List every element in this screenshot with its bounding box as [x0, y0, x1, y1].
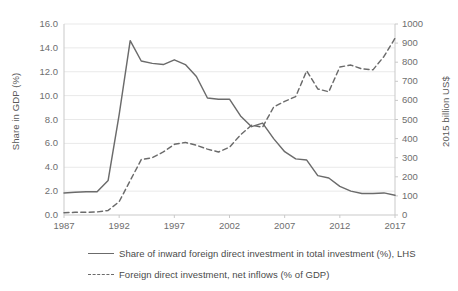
series-line-solid — [64, 41, 395, 196]
right-axis-tick-label: 100 — [402, 190, 436, 201]
right-axis-title: 2015 billion US$ — [440, 53, 451, 171]
x-axis-tick-label: 2017 — [375, 220, 415, 231]
left-axis-tick-label: 8.0 — [26, 114, 58, 125]
right-axis-tick-label: 1000 — [402, 18, 436, 29]
right-axis-tick-label: 400 — [402, 133, 436, 144]
legend-item-solid: Share of inward foreign direct investmen… — [0, 243, 458, 264]
legend-solid-line-icon — [88, 249, 114, 259]
right-axis-tick-label: 200 — [402, 171, 436, 182]
right-axis-tick-label: 600 — [402, 94, 436, 105]
left-axis-tick-label: 16.0 — [26, 18, 58, 29]
right-axis-tick-label: 0 — [402, 209, 436, 220]
left-axis-tick-label: 2.0 — [26, 185, 58, 196]
right-axis-tick-label: 300 — [402, 152, 436, 163]
left-axis-title: Share in GDP (%) — [10, 53, 21, 171]
right-axis-tick-label: 900 — [402, 37, 436, 48]
legend-label-dashed: Foreign direct investment, net inflows (… — [119, 269, 329, 280]
legend-label-solid: Share of inward foreign direct investmen… — [119, 248, 416, 259]
chart-legend: Share of inward foreign direct investmen… — [0, 243, 458, 285]
right-axis-tick-label: 700 — [402, 75, 436, 86]
series-line-dashed — [64, 38, 395, 212]
left-axis-tick-label: 12.0 — [26, 66, 58, 77]
x-axis-tick-label: 2007 — [265, 220, 305, 231]
dual-axis-line-chart: Share in GDP (%) 2015 billion US$ 0.02.0… — [0, 0, 458, 291]
x-axis-tick-label: 1987 — [44, 220, 84, 231]
left-axis-tick-label: 0.0 — [26, 209, 58, 220]
x-axis-tick-label: 2002 — [210, 220, 250, 231]
left-axis-tick-label: 6.0 — [26, 137, 58, 148]
right-axis-tick-label: 500 — [402, 114, 436, 125]
left-axis-tick-label: 14.0 — [26, 42, 58, 53]
x-axis-tick-label: 1992 — [99, 220, 139, 231]
x-axis-tick-label: 2012 — [320, 220, 360, 231]
legend-item-dashed: Foreign direct investment, net inflows (… — [0, 264, 458, 285]
x-axis-tick-label: 1997 — [154, 220, 194, 231]
left-axis-tick-label: 10.0 — [26, 90, 58, 101]
legend-dashed-line-icon — [88, 270, 114, 280]
right-axis-tick-label: 800 — [402, 56, 436, 67]
left-axis-tick-label: 4.0 — [26, 161, 58, 172]
